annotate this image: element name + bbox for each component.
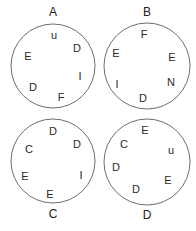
circle-letter: E [21,170,28,182]
circle-letter: I [79,169,82,181]
circle-letter: u [51,29,57,41]
circle-group-d: D ECuDED [104,119,190,222]
circle-label-c: C [49,207,58,221]
circle-letter: I [115,78,118,90]
circle-group-b: B FEENID [104,5,190,109]
circle-letter: E [24,50,31,62]
circle-letter: D [73,42,81,54]
circle-label-d: D [143,208,152,222]
circle-group-a: A uDEIDF [11,5,95,108]
circle-group-c: C DDCIEE [11,119,95,221]
circle-letter: N [167,76,175,88]
circle-letter: C [120,138,128,150]
circle-letter: D [49,125,57,137]
circle-letter: D [139,92,147,104]
circle-letter: D [112,161,120,173]
circle-letter: D [29,81,37,93]
circle-letter: C [25,143,33,155]
circle-letter: D [132,183,140,195]
circle-letter: E [164,174,171,186]
circle-label-a: A [49,5,57,19]
circle-letter: F [58,91,65,103]
circle-letter: F [141,28,148,40]
circle-label-b: B [143,5,151,19]
circle-letter: I [78,70,81,82]
circle-letter: u [168,144,174,156]
circle-letter: E [46,188,53,200]
circle-letter: D [73,138,81,150]
circle-letter: E [141,124,148,136]
circle-letter: E [168,51,175,63]
circle-letter: E [112,47,119,59]
letter-circles-diagram: A uDEIDF B FEENID C DDCIEE D ECuDED [0,0,196,231]
